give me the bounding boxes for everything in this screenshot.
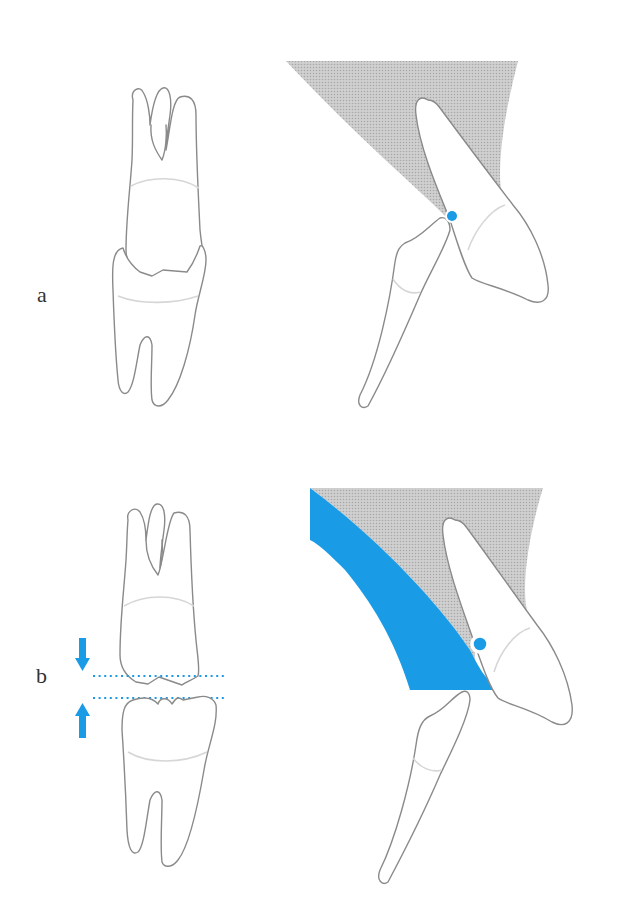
lower-molar-b xyxy=(122,696,216,866)
up-arrow-icon xyxy=(75,703,90,738)
panel-b xyxy=(75,488,572,883)
lower-incisor-a xyxy=(359,218,450,408)
upper-molar-a xyxy=(126,88,203,278)
dental-occlusion-diagram xyxy=(0,0,617,916)
contact-point-dot-a-fill xyxy=(447,211,457,221)
contact-point-ring-b xyxy=(472,636,488,652)
upper-molar-b xyxy=(120,504,199,685)
panel-a xyxy=(113,61,549,407)
down-arrow-icon xyxy=(75,638,90,671)
lower-incisor-b xyxy=(379,691,470,883)
